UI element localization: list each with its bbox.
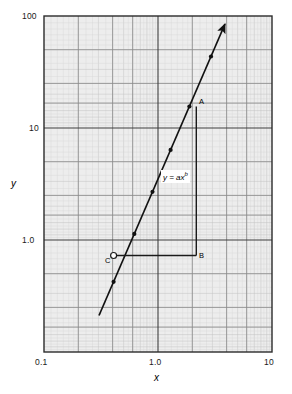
- data-point-marker: [112, 280, 116, 284]
- grid-group: [44, 16, 272, 352]
- point-label-a: A: [199, 97, 204, 106]
- data-point-marker: [169, 148, 173, 152]
- equation-annotation: y = axb: [161, 170, 190, 183]
- data-point-marker: [187, 104, 191, 108]
- data-point-marker: [132, 232, 136, 236]
- log-log-chart-figure: 100 10 1.0 0.1 1.0 10 y x y = axb A B C: [0, 0, 292, 394]
- y-tick-label-1: 1.0: [22, 235, 34, 245]
- x-axis-title: x: [154, 372, 159, 383]
- data-point-marker: [150, 190, 154, 194]
- y-axis-title: y: [11, 178, 16, 189]
- chart-canvas: [0, 0, 292, 394]
- y-tick-label-10: 10: [29, 123, 39, 133]
- y-tick-label-100: 100: [22, 11, 37, 21]
- x-tick-label-10: 10: [264, 357, 274, 367]
- equation-exponent: b: [185, 171, 188, 177]
- x-tick-label-0-1: 0.1: [35, 357, 47, 367]
- data-point-marker: [209, 54, 213, 58]
- point-c-marker: [111, 253, 117, 259]
- point-label-b: B: [199, 251, 204, 260]
- point-label-c: C: [105, 256, 110, 265]
- equation-base: y = ax: [163, 173, 185, 182]
- x-tick-label-1: 1.0: [149, 357, 161, 367]
